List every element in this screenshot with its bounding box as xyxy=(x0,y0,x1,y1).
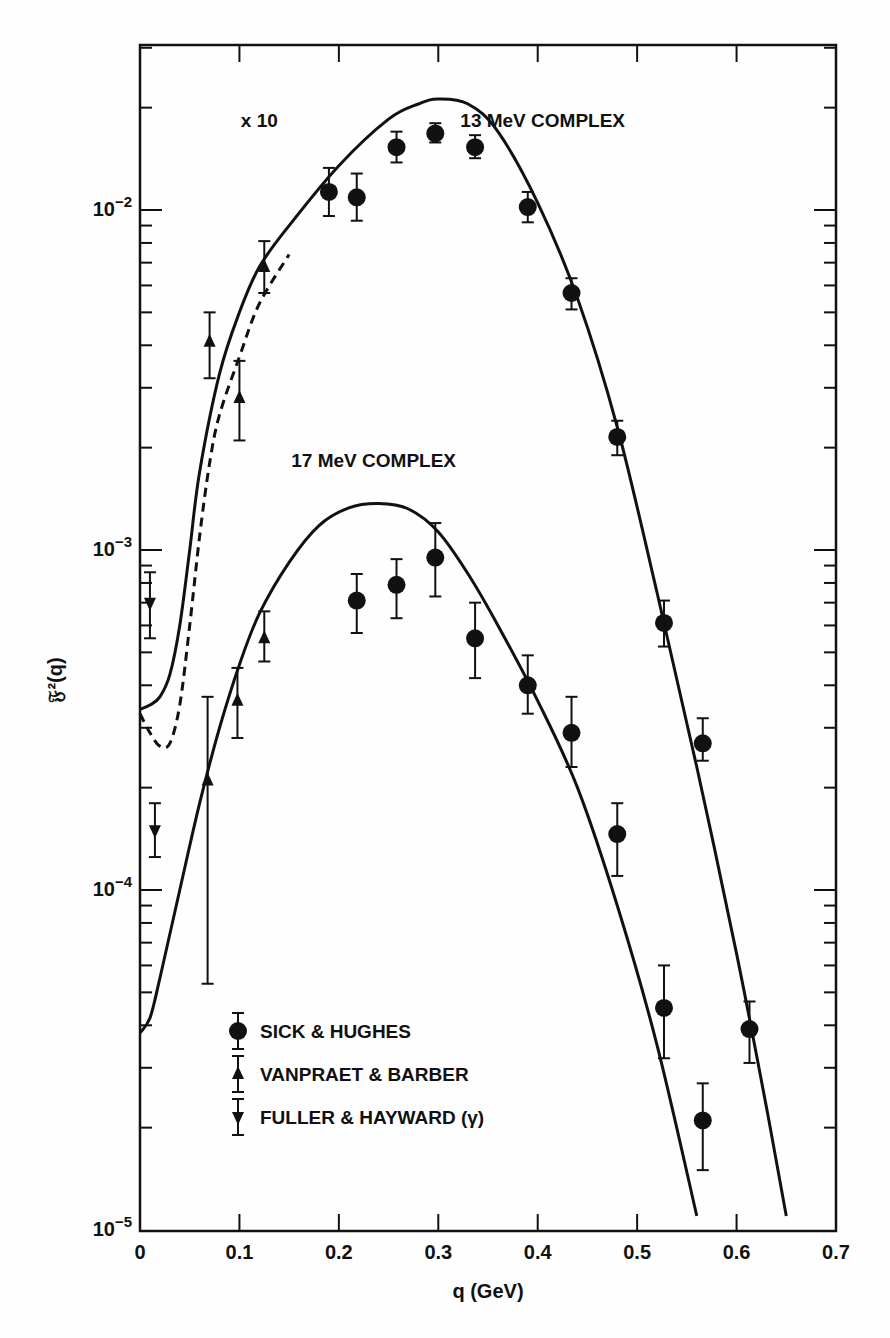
circle-marker-icon xyxy=(426,549,444,567)
triangle-up-marker-icon xyxy=(258,630,270,643)
circle-marker-icon xyxy=(426,124,444,142)
x-axis-title: q (GeV) xyxy=(452,1280,523,1302)
y-tick-label: 10−2 xyxy=(93,193,132,220)
circle-marker-icon xyxy=(519,198,537,216)
triangle-up-marker-icon xyxy=(231,693,243,706)
circle-marker-icon xyxy=(229,1022,247,1040)
triangle-up-marker-icon xyxy=(233,390,245,403)
circle-marker-icon xyxy=(466,138,484,156)
x-tick-label: 0.5 xyxy=(623,1241,651,1263)
plot-frame xyxy=(140,45,836,1231)
circle-marker-icon xyxy=(740,1020,758,1038)
data-series xyxy=(320,123,759,1063)
y-axis-title: 𝔉²(q) xyxy=(44,657,66,702)
circle-marker-icon xyxy=(563,284,581,302)
axis-ticks xyxy=(140,45,836,1231)
circle-marker-icon xyxy=(563,724,581,742)
circle-marker-icon xyxy=(388,138,406,156)
x-tick-label: 0.4 xyxy=(524,1241,553,1263)
triangle-up-marker-icon xyxy=(232,1066,244,1079)
triangle-up-marker-icon xyxy=(204,334,216,347)
chart-annotation: x 10 xyxy=(241,110,278,131)
circle-marker-icon xyxy=(348,188,366,206)
x-tick-label: 0.1 xyxy=(226,1241,254,1263)
legend-entry: FULLER & HAYWARD (γ) xyxy=(232,1099,484,1135)
legend-entry: VANPRAET & BARBER xyxy=(232,1056,469,1092)
y-tick-label: 10−3 xyxy=(93,533,132,560)
data-series xyxy=(202,611,271,983)
circle-marker-icon xyxy=(519,676,537,694)
circle-marker-icon xyxy=(466,629,484,647)
circle-marker-icon xyxy=(348,592,366,610)
circle-marker-icon xyxy=(694,734,712,752)
x-tick-label: 0.3 xyxy=(424,1241,452,1263)
circle-marker-icon xyxy=(608,428,626,446)
x-tick-label: 0.7 xyxy=(822,1241,850,1263)
circle-marker-icon xyxy=(320,183,338,201)
triangle-down-marker-icon xyxy=(232,1112,244,1125)
circle-marker-icon xyxy=(655,614,673,632)
triangle-down-marker-icon xyxy=(149,825,161,838)
circle-marker-icon xyxy=(608,825,626,843)
y-tick-label: 10−4 xyxy=(93,873,133,900)
axis-titles: q (GeV)𝔉²(q) xyxy=(44,657,524,1302)
axis-tick-labels: 00.10.20.30.40.50.60.710−210−310−410−5 xyxy=(93,193,850,1263)
chart-annotation: 13 MeV COMPLEX xyxy=(460,110,625,131)
circle-marker-icon xyxy=(694,1111,712,1129)
legend-label: SICK & HUGHES xyxy=(260,1021,411,1042)
x-tick-label: 0.6 xyxy=(723,1241,751,1263)
triangle-up-marker-icon xyxy=(202,772,214,785)
circle-marker-icon xyxy=(655,999,673,1017)
x-tick-label: 0 xyxy=(134,1241,145,1263)
chart-annotation: 17 MeV COMPLEX xyxy=(291,450,456,471)
legend-label: VANPRAET & BARBER xyxy=(260,1064,469,1085)
circle-marker-icon xyxy=(388,576,406,594)
x-tick-label: 0.2 xyxy=(325,1241,353,1263)
legend-label: FULLER & HAYWARD (γ) xyxy=(260,1107,484,1128)
data-series xyxy=(144,572,161,857)
legend-entry: SICK & HUGHES xyxy=(229,1013,411,1049)
legend: SICK & HUGHESVANPRAET & BARBERFULLER & H… xyxy=(229,1013,484,1135)
dashed-theory-curve xyxy=(140,254,289,747)
y-tick-label: 10−5 xyxy=(93,1213,132,1240)
data-series xyxy=(204,241,271,440)
chart-canvas: 00.10.20.30.40.50.60.710−210−310−410−5 x… xyxy=(0,0,890,1338)
plot-border xyxy=(140,45,836,1231)
triangle-down-marker-icon xyxy=(144,598,156,611)
